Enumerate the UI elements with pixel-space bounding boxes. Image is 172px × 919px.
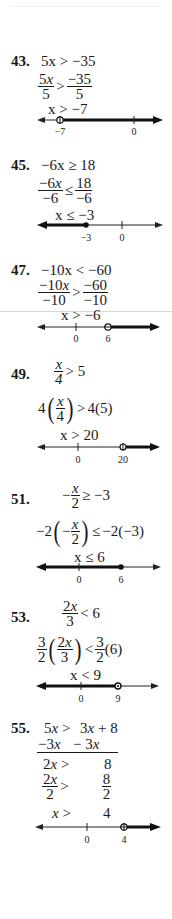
number-line — [0, 0, 172, 919]
tick-label: 0 — [85, 834, 90, 845]
tick-label: 4 — [122, 834, 127, 845]
